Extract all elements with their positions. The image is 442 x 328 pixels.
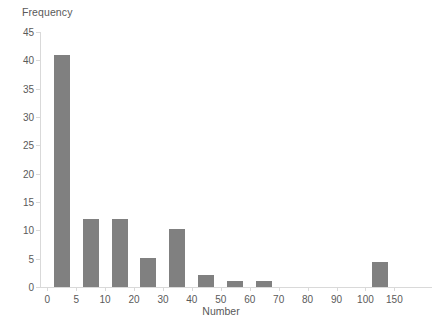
x-axis-tick-label: 90 [331, 294, 342, 305]
x-axis-tick [47, 287, 48, 291]
x-axis-tick [365, 287, 366, 291]
y-axis-tick-label: 40 [23, 55, 34, 66]
x-axis-tick-label: 150 [386, 294, 403, 305]
y-axis-tick-label: 10 [23, 225, 34, 236]
x-axis-tick-label: 0 [44, 294, 50, 305]
y-axis-tick-label: 30 [23, 112, 34, 123]
x-axis-tick-label: 20 [128, 294, 139, 305]
x-axis-tick [250, 287, 251, 291]
x-axis-tick [308, 287, 309, 291]
bar [112, 219, 128, 287]
bar [372, 262, 388, 287]
x-axis-tick [221, 287, 222, 291]
y-axis-tick-label: 20 [23, 168, 34, 179]
histogram-chart: Frequency 051015202530354045 05102030405… [0, 0, 442, 328]
y-axis-tick-label: 45 [23, 27, 34, 38]
x-axis-tick-label: 40 [186, 294, 197, 305]
x-axis-tick [337, 287, 338, 291]
bar [54, 55, 70, 287]
x-axis-tick [192, 287, 193, 291]
x-axis-tick-label: 50 [215, 294, 226, 305]
bar [227, 281, 243, 287]
plot-area: 051015202530354045 051020304050607080901… [40, 32, 432, 287]
y-axis-tick [36, 287, 40, 288]
x-axis-title: Number [0, 305, 442, 317]
bar [169, 229, 185, 287]
bar [256, 281, 272, 287]
x-axis-line [40, 287, 432, 288]
y-axis-tick-label: 25 [23, 140, 34, 151]
y-axis-tick-label: 15 [23, 197, 34, 208]
bar [83, 219, 99, 287]
y-axis-title: Frequency [22, 6, 73, 18]
x-axis-tick [134, 287, 135, 291]
x-axis-tick [76, 287, 77, 291]
x-axis-tick-label: 70 [273, 294, 284, 305]
x-axis-tick [394, 287, 395, 291]
bar [140, 258, 156, 287]
x-axis-tick [105, 287, 106, 291]
x-axis-tick-label: 10 [100, 294, 111, 305]
x-axis-tick-label: 80 [302, 294, 313, 305]
x-axis-tick [163, 287, 164, 291]
x-axis-tick-label: 100 [357, 294, 374, 305]
x-axis-tick-label: 30 [157, 294, 168, 305]
x-axis-tick-label: 5 [73, 294, 79, 305]
bar [198, 275, 214, 287]
y-axis-tick-label: 35 [23, 83, 34, 94]
bars-layer [40, 32, 432, 287]
x-axis-tick-label: 60 [244, 294, 255, 305]
y-axis-tick-label: 0 [28, 282, 34, 293]
y-axis-tick-label: 5 [28, 253, 34, 264]
x-axis-tick [279, 287, 280, 291]
